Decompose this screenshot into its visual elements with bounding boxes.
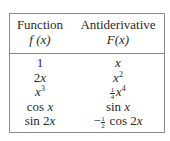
function-cell: sin 2x [10, 114, 70, 129]
function-cell: 2x [10, 71, 70, 86]
table-row: 2x x2 [10, 71, 164, 86]
antiderivative-cell: sin x [72, 100, 164, 115]
table-header: Function f (x) Antiderivative F(x) [10, 14, 164, 54]
table-row: cos x sin x [10, 100, 164, 115]
antiderivative-cell: x2 [72, 71, 164, 86]
header-function-notation: f (x) [10, 33, 70, 47]
antiderivative-cell: x [115, 55, 121, 70]
table-row: 1 x [10, 56, 164, 71]
table-body: 1 x 2x x2 x3 14x4 cos x sin x sin 2x −12… [10, 56, 164, 129]
header-antiderivative-title: Antiderivative [72, 18, 164, 32]
antiderivative-cell: −12 cos 2x [72, 114, 164, 129]
header-function-title: Function [10, 18, 70, 32]
table-row: x3 14x4 [10, 85, 164, 100]
antiderivative-cell: 14x4 [72, 85, 164, 100]
antiderivative-table: Function f (x) Antiderivative F(x) 1 x 2… [9, 13, 165, 133]
header-antiderivative-notation: F(x) [72, 33, 164, 47]
fraction: 12 [101, 116, 106, 129]
function-cell: x3 [10, 85, 70, 100]
table-row: sin 2x −12 cos 2x [10, 114, 164, 129]
function-cell: 1 [37, 55, 44, 70]
function-cell: cos x [10, 100, 70, 115]
